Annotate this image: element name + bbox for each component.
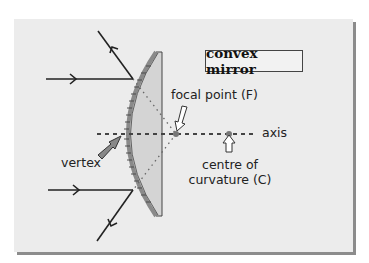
vertex-label: vertex	[61, 156, 101, 170]
centre-label-line2: curvature (C)	[187, 173, 273, 187]
centre-pointer-arrow	[223, 135, 235, 152]
reflected-ray-top	[98, 31, 133, 79]
vertex-pointer-arrow	[98, 136, 121, 159]
focal-point-marker	[173, 131, 179, 137]
reflected-ray-bottom	[97, 190, 133, 241]
focal-point-label: focal point (F)	[171, 88, 258, 102]
axis-label: axis	[262, 126, 287, 140]
diagram-title: convex mirror	[205, 50, 303, 72]
focal-pointer-arrow	[175, 106, 187, 131]
convex-mirror-diagram	[0, 0, 369, 263]
centre-label-line1: centre of	[200, 158, 260, 172]
